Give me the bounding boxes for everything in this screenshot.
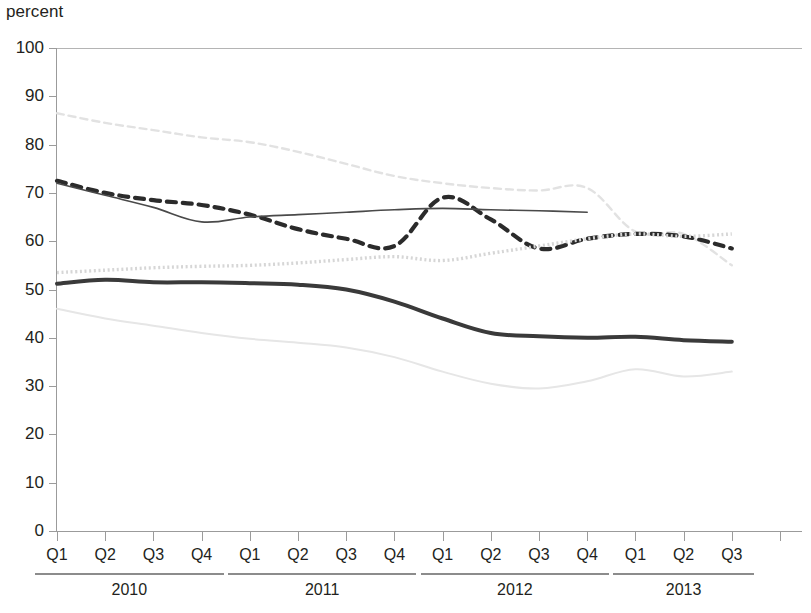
x-axis-quarter-label: Q2 [275,546,321,564]
x-axis-quarter-label: Q4 [564,546,610,564]
y-axis-labels: 0102030405060708090100 [0,0,44,613]
year-group-label: 2012 [421,580,610,600]
y-axis-tick [49,338,57,339]
y-axis-tick [49,434,57,435]
y-axis-label: 0 [0,522,44,539]
x-axis-quarter-label: Q4 [371,546,417,564]
x-axis-quarter-label: Q2 [468,546,514,564]
year-group-rule [613,573,753,575]
series-line-light-dotted-mid [57,234,732,273]
x-axis-quarter-label: Q3 [130,546,176,564]
y-axis-label: 20 [0,425,44,442]
x-axis-tick [443,532,444,541]
y-axis-label: 40 [0,329,44,346]
y-axis-label: 70 [0,184,44,201]
x-axis-quarter-label: Q2 [82,546,128,564]
year-group-label: 2010 [35,580,224,600]
year-group-rule [35,573,224,575]
year-group-label: 2011 [228,580,417,600]
y-axis-tick [49,96,57,97]
plot-area [57,48,802,531]
x-axis-tick [153,532,154,541]
y-axis-label: 10 [0,474,44,491]
y-axis-label: 30 [0,377,44,394]
x-axis-quarter-label: Q1 [227,546,273,564]
y-axis-tick [49,145,57,146]
y-axis-label: 80 [0,136,44,153]
percent-line-chart: percent 0102030405060708090100 Q1Q2Q3Q4Q… [0,0,811,613]
series-line-light-solid-lower [57,309,732,389]
x-axis-tick [346,532,347,541]
x-axis-line [56,531,802,532]
y-axis-tick [49,290,57,291]
year-group-rule [421,573,610,575]
x-axis-tick [298,532,299,541]
x-axis-tick [732,532,733,541]
x-axis-tick [250,532,251,541]
x-axis-tick [780,532,781,541]
series-canvas [57,48,802,531]
x-axis-tick [202,532,203,541]
y-axis-tick [49,386,57,387]
series-line-thick-solid-dark [57,280,732,342]
x-axis-quarter-label: Q1 [34,546,80,564]
x-axis-tick [105,532,106,541]
series-line-dark-dashed [57,181,732,249]
series-line-light-dashed-upper [57,113,732,265]
y-axis-label: 50 [0,281,44,298]
year-group-label: 2013 [613,580,753,600]
y-axis-tick [49,193,57,194]
y-axis-tick [49,241,57,242]
y-axis-tick [49,48,57,49]
x-axis-tick [635,532,636,541]
x-axis-tick [539,532,540,541]
y-axis-tick [49,531,57,532]
y-axis-label: 90 [0,87,44,104]
y-axis-label: 100 [0,39,44,56]
x-axis-tick [587,532,588,541]
x-axis-quarter-label: Q4 [179,546,225,564]
x-axis-quarter-label: Q1 [420,546,466,564]
x-axis-tick [394,532,395,541]
x-axis-quarter-label: Q2 [661,546,707,564]
y-axis-tick [49,483,57,484]
x-axis-tick [491,532,492,541]
x-axis-tick [57,532,58,541]
y-axis-label: 60 [0,232,44,249]
x-axis-quarter-label: Q3 [709,546,755,564]
x-axis-quarter-label: Q3 [516,546,562,564]
x-axis-quarter-label: Q3 [323,546,369,564]
year-group-rule [228,573,417,575]
x-axis-tick [684,532,685,541]
x-axis-quarter-label: Q1 [612,546,658,564]
